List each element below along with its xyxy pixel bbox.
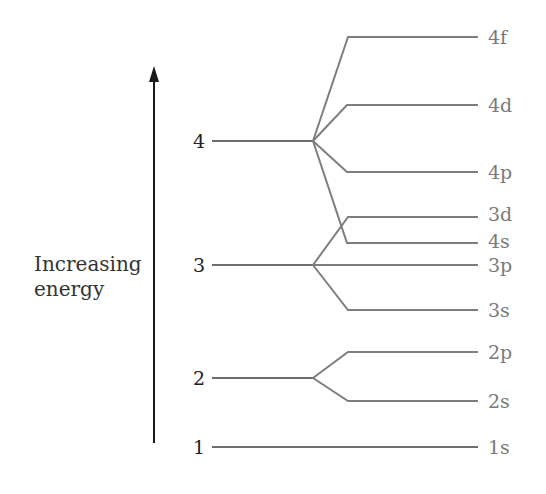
level-4-lines: [212, 37, 478, 243]
orbital-line-4p: [313, 141, 478, 172]
orbital-label-4p: 4p: [488, 161, 512, 183]
orbital-label-1s: 1s: [488, 436, 510, 458]
orbital-line-2s: [313, 378, 478, 401]
orbital-label-3p: 3p: [488, 254, 512, 276]
orbital-label-4s: 4s: [488, 230, 510, 252]
orbital-line-2p: [313, 352, 478, 378]
orbital-line-4d: [313, 105, 478, 141]
level-label-3: 3: [193, 254, 205, 276]
orbital-line-4s: [313, 141, 478, 243]
level-3-lines: [212, 217, 478, 310]
orbital-labels: 4f 4d 4p 3d 4s 3p 3s 2p 2s 1s: [488, 26, 512, 458]
orbital-label-2p: 2p: [488, 341, 512, 363]
orbital-label-4f: 4f: [488, 26, 509, 48]
orbital-line-4f: [313, 37, 478, 141]
orbital-label-3d: 3d: [488, 203, 512, 225]
axis-label-line1: Increasing: [34, 252, 142, 276]
level-label-1: 1: [193, 436, 205, 458]
orbital-label-4d: 4d: [488, 94, 512, 116]
level-labels: 4 3 2 1: [193, 130, 205, 458]
orbital-label-3s: 3s: [488, 299, 510, 321]
orbital-label-2s: 2s: [488, 390, 510, 412]
level-label-4: 4: [193, 130, 205, 152]
level-label-2: 2: [193, 367, 205, 389]
level-2-lines: [212, 352, 478, 401]
axis-label-line2: energy: [34, 277, 105, 301]
energy-level-diagram: Increasing energy 4 3 2 1 4f 4d 4p 3d: [0, 0, 546, 494]
orbital-line-3s: [313, 265, 478, 310]
energy-axis: Increasing energy: [34, 66, 159, 443]
energy-arrow-head-icon: [149, 66, 159, 82]
orbital-line-3d: [313, 217, 478, 265]
